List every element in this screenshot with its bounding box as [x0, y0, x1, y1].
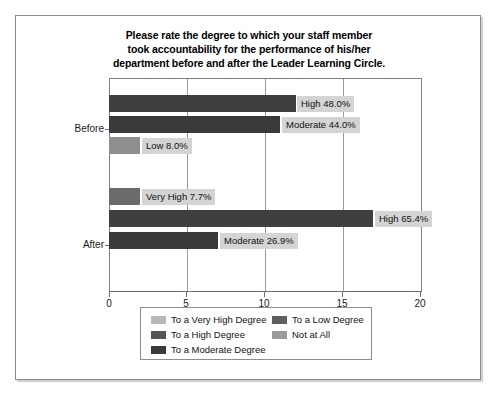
legend-item-moderate-degree: To a Moderate Degree — [151, 344, 266, 355]
legend-label-not-at-all: Not at All — [292, 329, 330, 340]
x-tick-0 — [109, 292, 110, 297]
bar-after-very-high — [109, 188, 140, 205]
legend-swatch-very-high-degree — [151, 316, 166, 324]
legend-swatch-low-degree — [272, 316, 287, 324]
x-tick-10 — [264, 292, 265, 297]
legend-label-low-degree: To a Low Degree — [292, 314, 364, 325]
bar-label-before-low: Low 8.0% — [142, 138, 192, 154]
x-axis-line — [109, 291, 421, 292]
category-label-after: After — [54, 239, 104, 250]
legend-label-moderate-degree: To a Moderate Degree — [171, 344, 266, 355]
legend-label-very-high-degree: To a Very High Degree — [171, 314, 267, 325]
legend-swatch-high-degree — [151, 331, 166, 339]
category-label-before: Before — [54, 123, 104, 134]
chart-title-line-2: took accountability for the performance … — [46, 42, 452, 56]
legend-item-very-high-degree: To a Very High Degree — [151, 314, 267, 325]
bar-label-after-moderate: Moderate 26.9% — [220, 233, 298, 249]
chart-title: Please rate the degree to which your sta… — [46, 28, 452, 70]
bar-before-moderate — [109, 116, 280, 133]
legend-item-high-degree: To a High Degree — [151, 329, 245, 340]
x-label-20: 20 — [408, 298, 432, 309]
x-tick-20 — [420, 292, 421, 297]
legend-label-high-degree: To a High Degree — [171, 329, 245, 340]
bar-label-after-very-high: Very High 7.7% — [142, 189, 215, 205]
bar-before-high — [109, 95, 296, 112]
bar-label-before-high: High 48.0% — [297, 96, 354, 112]
bar-before-low — [109, 137, 140, 154]
legend-swatch-moderate-degree — [151, 346, 166, 354]
x-tick-5 — [186, 292, 187, 297]
x-tick-15 — [342, 292, 343, 297]
bar-label-after-high: High 65.4% — [375, 211, 432, 227]
bar-label-before-moderate: Moderate 44.0% — [282, 117, 360, 133]
chart-legend: To a Very High Degree To a High Degree T… — [140, 307, 372, 360]
chart-title-line-1: Please rate the degree to which your sta… — [46, 28, 452, 42]
bar-after-moderate — [109, 232, 218, 249]
bar-after-high — [109, 210, 373, 227]
x-label-0: 0 — [97, 298, 121, 309]
chart-title-line-3: department before and after the Leader L… — [46, 56, 452, 70]
chart-frame: Please rate the degree to which your sta… — [15, 15, 481, 380]
legend-swatch-not-at-all — [272, 331, 287, 339]
legend-item-low-degree: To a Low Degree — [272, 314, 364, 325]
legend-item-not-at-all: Not at All — [272, 329, 330, 340]
